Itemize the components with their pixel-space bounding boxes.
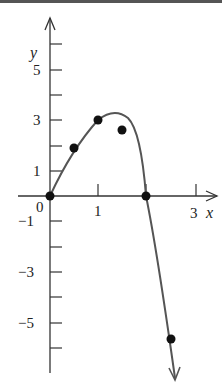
- point-2-0: [142, 192, 151, 201]
- point-0-0: [46, 192, 55, 201]
- y-axis-label: y: [28, 44, 38, 62]
- y-tick-label-neg5: −5: [18, 315, 34, 331]
- x-axis-label: x: [205, 204, 213, 221]
- point-0.5-1.9: [70, 144, 79, 153]
- y-tick-label-5: 5: [33, 62, 41, 78]
- function-curve: [50, 113, 175, 378]
- origin-label: 0: [36, 199, 44, 215]
- point-1-3: [94, 116, 103, 125]
- point-2.5-neg5.6: [167, 335, 176, 344]
- y-tick-label-1: 1: [33, 163, 41, 179]
- y-tick-label-3: 3: [33, 112, 41, 128]
- y-tick-label-neg3: −3: [18, 264, 34, 280]
- chart: y x 0 1 3 5 3 1 −1 −3 −5: [0, 0, 222, 383]
- x-tick-label-1: 1: [94, 203, 102, 219]
- x-tick-label-3: 3: [190, 205, 198, 221]
- point-1.5-2.6: [118, 126, 127, 135]
- y-tick-label-neg1: −1: [18, 213, 34, 229]
- data-points: [46, 116, 176, 344]
